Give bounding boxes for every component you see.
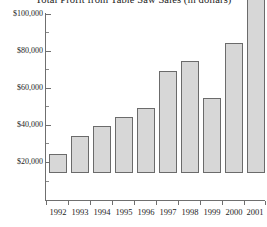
bar-1998[interactable] xyxy=(181,61,199,173)
x-axis-tick-4 xyxy=(134,201,135,205)
x-axis-tick-2 xyxy=(90,201,91,205)
x-axis-tick-5 xyxy=(156,201,157,205)
x-axis-tick-8 xyxy=(222,201,223,205)
x-axis-tick-10 xyxy=(265,201,266,205)
x-axis-tick-0 xyxy=(46,201,47,205)
bar-1997[interactable] xyxy=(159,71,177,173)
x-axis-tick-9 xyxy=(244,201,245,205)
bar-2000[interactable] xyxy=(225,43,243,173)
bar-1992[interactable] xyxy=(49,154,67,173)
x-axis-line xyxy=(45,200,265,201)
bar-1995[interactable] xyxy=(115,117,133,173)
bar-1999[interactable] xyxy=(203,98,221,173)
bar-1996[interactable] xyxy=(137,108,155,173)
bar-1994[interactable] xyxy=(93,126,111,173)
bars-layer xyxy=(0,0,267,200)
x-axis-label-2001: 2001 xyxy=(240,207,267,217)
x-axis-tick-3 xyxy=(112,201,113,205)
bar-2001[interactable] xyxy=(247,0,265,173)
bar-chart: Total Profit from Table Saw Sales (in do… xyxy=(0,0,267,227)
x-axis-tick-6 xyxy=(178,201,179,205)
x-axis-tick-1 xyxy=(68,201,69,205)
x-axis-tick-7 xyxy=(200,201,201,205)
bar-1993[interactable] xyxy=(71,136,89,173)
